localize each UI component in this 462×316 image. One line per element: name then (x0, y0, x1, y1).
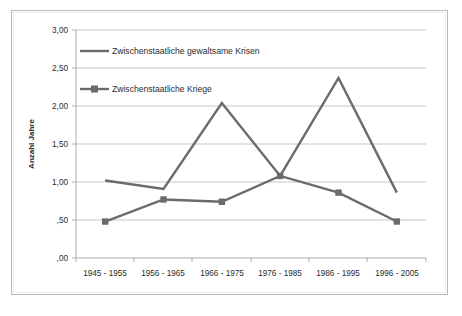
series-line-kriege (105, 176, 397, 222)
x-tick-label-0: 1945 - 1955 (83, 269, 127, 278)
y-tick-label-0-00: ,00 (57, 254, 69, 263)
x-tick-labels: 1945 - 1955 1956 - 1965 1966 - 1975 1976… (83, 269, 419, 278)
legend-entry-krisen[interactable]: Zwischenstaatliche gewaltsame Krisen (80, 46, 260, 56)
caption-strip (14, 302, 434, 314)
legend-marker-kriege (91, 86, 98, 93)
data-point (277, 173, 283, 179)
data-point (394, 218, 400, 224)
y-tick-labels: 3,00 2,50 2,00 1,50 1,00 ,50 ,00 (52, 26, 68, 263)
line-chart: 3,00 2,50 2,00 1,50 1,00 ,50 ,00 Anzahl … (12, 11, 447, 294)
y-axis-title: Anzahl Jahre (27, 119, 36, 169)
legend-label-kriege: Zwischenstaatliche Kriege (112, 84, 212, 94)
y-tick-label-0-50: ,50 (57, 216, 69, 225)
legend: Zwischenstaatliche gewaltsame Krisen Zwi… (80, 46, 260, 94)
x-tick-label-3: 1976 - 1985 (258, 269, 302, 278)
x-tickmarks (76, 258, 426, 262)
y-tick-label-2-50: 2,50 (52, 64, 68, 73)
gridlines (76, 30, 426, 220)
legend-label-krisen: Zwischenstaatliche gewaltsame Krisen (112, 46, 260, 56)
y-tick-label-3-00: 3,00 (52, 26, 68, 35)
y-tick-label-2-00: 2,00 (52, 102, 68, 111)
legend-entry-kriege[interactable]: Zwischenstaatliche Kriege (80, 84, 212, 94)
data-point (219, 199, 225, 205)
series-kriege (102, 173, 400, 225)
x-tick-label-1: 1956 - 1965 (141, 269, 185, 278)
series-line-krisen (105, 78, 397, 193)
y-tickmarks (72, 30, 76, 258)
data-point (335, 189, 341, 195)
data-point (102, 218, 108, 224)
figure-frame: 3,00 2,50 2,00 1,50 1,00 ,50 ,00 Anzahl … (11, 10, 448, 295)
y-tick-label-1-00: 1,00 (52, 178, 68, 187)
data-point (160, 196, 166, 202)
x-tick-label-2: 1966 - 1975 (200, 269, 244, 278)
y-tick-label-1-50: 1,50 (52, 140, 68, 149)
x-tick-label-4: 1986 - 1995 (316, 269, 360, 278)
series-markers-kriege (102, 173, 400, 225)
x-tick-label-5: 1996 - 2005 (375, 269, 419, 278)
series-krisen (105, 78, 397, 193)
